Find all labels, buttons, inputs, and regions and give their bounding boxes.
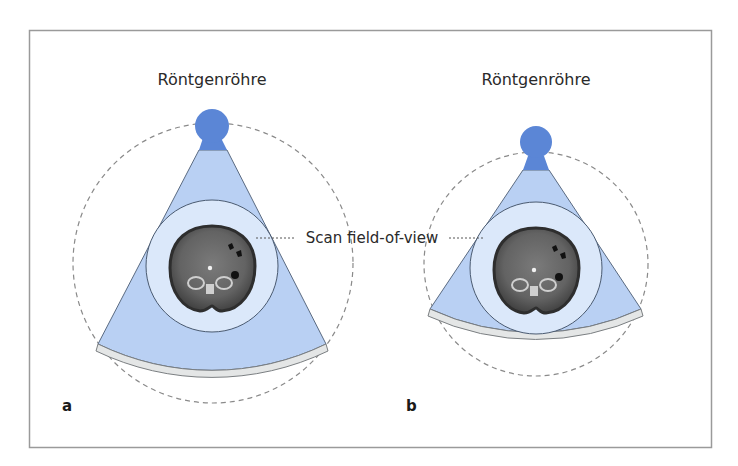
panel-b: Röntgenröhre b (406, 70, 648, 415)
panel-label-b: b (406, 397, 417, 415)
ct-slice-image (170, 226, 255, 311)
scan-fov-annotation: Scan field-of-view (256, 229, 483, 247)
panel-label-a: a (62, 397, 72, 415)
tube-label-a: Röntgenröhre (158, 70, 267, 89)
tube-label-b: Röntgenröhre (482, 70, 591, 89)
scan-fov-label: Scan field-of-view (306, 229, 438, 247)
ct-slice-image (494, 228, 579, 313)
x-ray-tube-icon (520, 126, 552, 158)
x-ray-tube-neck (523, 156, 549, 170)
ct-geometry-diagram: Röntgenröhre a Röntgenröhre b (0, 0, 738, 466)
x-ray-tube-icon (195, 109, 229, 143)
